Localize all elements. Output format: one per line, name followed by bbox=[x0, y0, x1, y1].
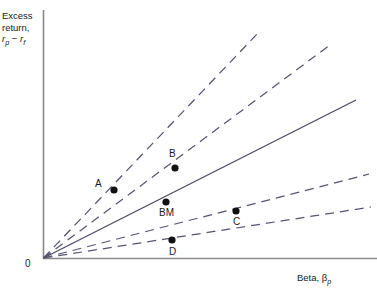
y-axis-label-operator: − bbox=[12, 33, 18, 44]
x-axis-label-text: Beta, bbox=[297, 272, 322, 283]
ray-line-B bbox=[44, 45, 331, 258]
x-axis-label: Beta, βp bbox=[297, 272, 331, 287]
point-label-D: D bbox=[169, 246, 176, 257]
data-point-A bbox=[110, 186, 117, 193]
data-point-B bbox=[171, 164, 178, 171]
point-label-C: C bbox=[233, 216, 240, 227]
ray-line-C bbox=[44, 174, 370, 258]
ray-line-A bbox=[44, 33, 259, 258]
chart-plot-area bbox=[0, 0, 377, 295]
x-axis-label-sub-p: p bbox=[327, 277, 331, 286]
y-axis-label-line1: Excess bbox=[2, 10, 33, 22]
chart-figure: Excess return, rp − rf Beta, βp 0 A B BM… bbox=[0, 0, 377, 295]
data-point-C bbox=[232, 207, 239, 214]
point-label-B: B bbox=[169, 148, 176, 159]
y-axis-label-math: rp − rf bbox=[2, 33, 33, 48]
y-axis-label: Excess return, rp − rf bbox=[2, 10, 33, 48]
y-axis-label-sub-f: f bbox=[23, 38, 25, 47]
y-axis-label-sub-p: p bbox=[5, 38, 9, 47]
point-label-BM: BM bbox=[159, 207, 174, 218]
data-point-BM bbox=[162, 198, 169, 205]
point-label-A: A bbox=[95, 178, 102, 189]
origin-label: 0 bbox=[25, 258, 31, 269]
y-axis-label-line2: return, bbox=[2, 22, 33, 34]
data-point-D bbox=[168, 236, 175, 243]
